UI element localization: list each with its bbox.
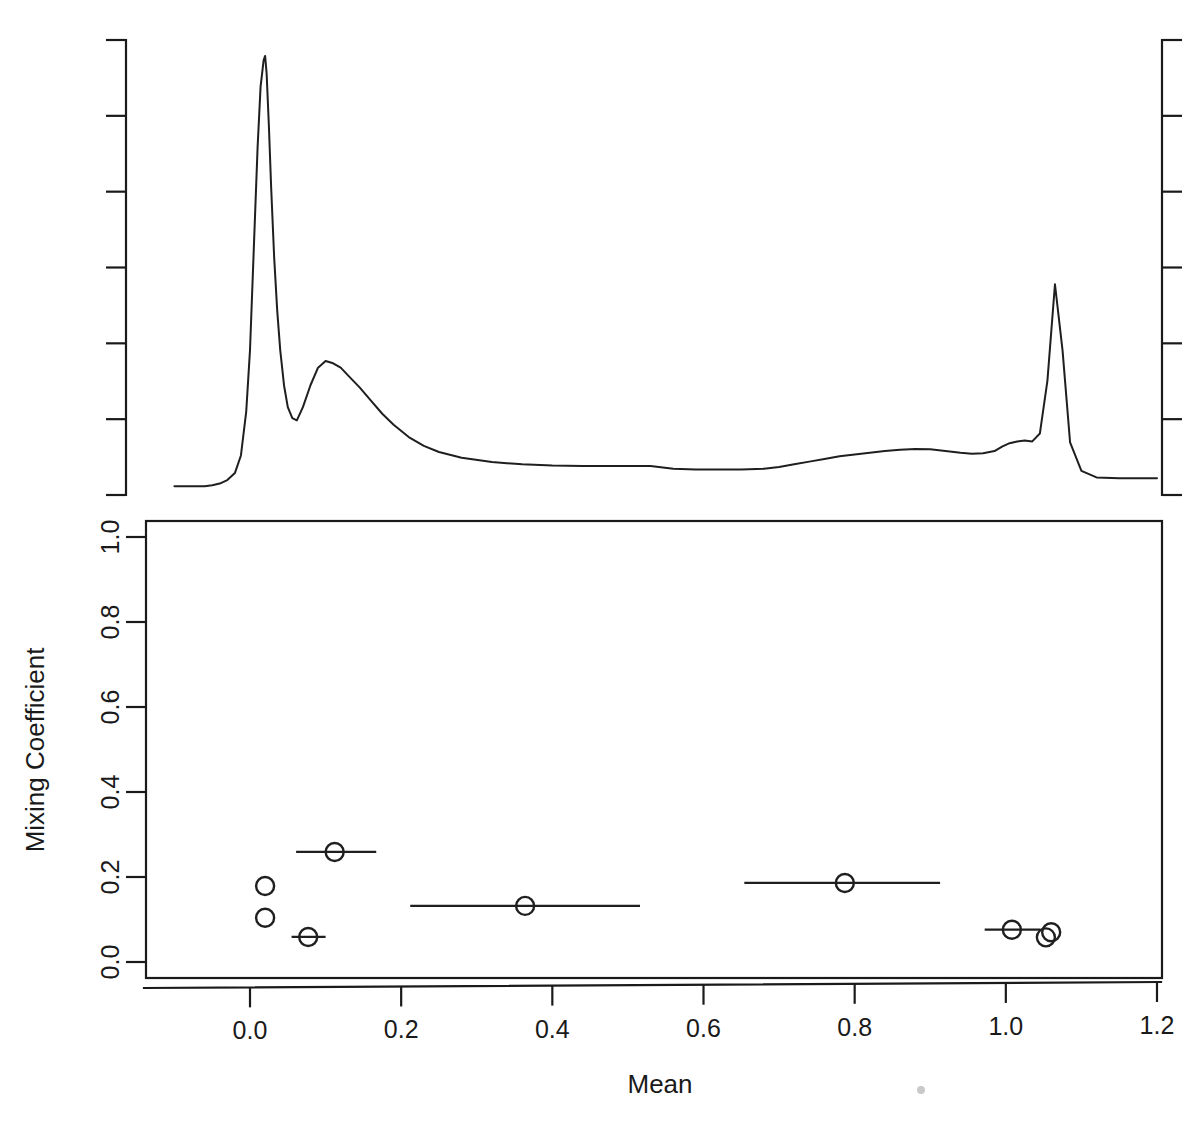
data-point[interactable] [1037,928,1055,946]
data-points [256,843,1060,946]
x-tick-label: 1.0 [988,1012,1023,1040]
plot-frame [146,521,1162,978]
x-tick-label: 0.4 [535,1015,570,1043]
y-tick-label: 1.0 [96,520,124,555]
error-bars [292,852,1041,937]
y-tick-label: 0.8 [96,605,124,640]
y-tick-label: 0.6 [96,690,124,725]
data-point[interactable] [256,877,274,895]
y-tick-label: 0.0 [96,945,124,980]
y-axis-tick-labels: 0.00.20.40.60.81.0 [96,520,124,980]
x-tick-label: 1.2 [1140,1011,1175,1039]
x-tick-label: 0.0 [233,1016,268,1044]
x-tick-label: 0.8 [837,1013,872,1041]
scan-artifact-speck [917,1086,925,1094]
density-left-ticks [106,40,126,495]
x-axis-line [144,982,1161,988]
y-tick-label: 0.2 [96,860,124,895]
y-axis-ticks [126,537,146,962]
y-tick-label: 0.4 [96,775,124,810]
x-axis-title: Mean [627,1069,692,1099]
y-axis-title: Mixing Coefficient [20,647,50,853]
density-right-ticks [1162,40,1182,495]
x-axis-tick-labels: 0.00.20.40.60.81.01.2 [233,1011,1175,1044]
data-point[interactable] [1042,923,1060,941]
density-panel [106,40,1182,495]
figure-root: 0.00.20.40.60.81.0 0.00.20.40.60.81.01.2… [0,0,1203,1127]
mixture-model-figure: 0.00.20.40.60.81.0 0.00.20.40.60.81.01.2… [0,0,1203,1127]
x-tick-label: 0.2 [384,1015,419,1043]
mixture-parameter-panel: 0.00.20.40.60.81.0 0.00.20.40.60.81.01.2 [96,520,1174,1045]
data-point[interactable] [256,909,274,927]
x-tick-label: 0.6 [686,1014,721,1042]
density-curve [174,56,1157,486]
